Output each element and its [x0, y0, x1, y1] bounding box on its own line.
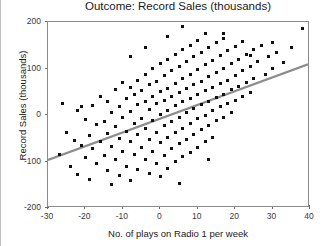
data-point: [222, 116, 225, 119]
data-point: [290, 46, 293, 49]
data-point: [155, 80, 158, 83]
data-point: [140, 89, 143, 92]
data-point: [110, 145, 113, 148]
data-point: [118, 137, 121, 140]
data-point: [110, 111, 113, 114]
data-point: [133, 93, 136, 96]
data-point: [166, 109, 169, 112]
data-point: [211, 109, 214, 112]
data-point: [118, 174, 121, 177]
data-point: [125, 130, 128, 133]
data-point: [226, 79, 229, 82]
data-point: [226, 102, 229, 105]
data-point: [140, 117, 143, 120]
x-tick-label: -30: [27, 211, 67, 221]
y-tick-label: -100: [7, 156, 41, 166]
data-point: [88, 134, 91, 137]
data-point: [215, 41, 218, 44]
data-point: [185, 60, 188, 63]
data-point: [267, 55, 270, 58]
x-tick-mark: [309, 205, 310, 209]
data-point: [159, 175, 162, 178]
data-point: [136, 103, 139, 106]
data-point: [181, 25, 184, 28]
data-point: [219, 54, 222, 57]
data-point: [301, 27, 304, 30]
data-point: [192, 107, 195, 110]
data-point: [230, 88, 233, 91]
data-point: [185, 111, 188, 114]
data-point: [178, 91, 181, 94]
data-point: [118, 105, 121, 108]
data-point: [95, 162, 98, 165]
data-point: [155, 162, 158, 165]
data-point: [256, 60, 259, 63]
data-point: [271, 41, 274, 44]
y-tick-label: 100: [7, 63, 41, 73]
data-point: [76, 173, 79, 176]
data-point: [155, 102, 158, 105]
data-point: [215, 119, 218, 122]
data-point: [271, 67, 274, 70]
x-tick-label: 30: [252, 211, 292, 221]
data-point: [192, 83, 195, 86]
data-point: [170, 95, 173, 98]
data-point: [204, 32, 207, 35]
data-point: [241, 69, 244, 72]
data-point: [200, 51, 203, 54]
data-point: [200, 128, 203, 131]
data-point: [245, 53, 248, 56]
data-point: [170, 147, 173, 150]
data-point: [249, 91, 252, 94]
data-point: [181, 127, 184, 130]
data-point: [178, 182, 181, 185]
data-point: [129, 55, 132, 58]
data-point: [204, 114, 207, 117]
data-point: [196, 68, 199, 71]
data-point: [148, 83, 151, 86]
data-point: [106, 132, 109, 135]
data-points-layer: [48, 22, 308, 206]
data-point: [159, 62, 162, 65]
data-point: [174, 53, 177, 56]
data-point: [185, 87, 188, 90]
data-point: [99, 140, 102, 143]
data-point: [163, 99, 166, 102]
data-point: [110, 183, 113, 186]
data-point: [174, 104, 177, 107]
data-point: [106, 169, 109, 172]
data-point: [166, 136, 169, 139]
data-point: [125, 97, 128, 100]
data-point: [129, 110, 132, 113]
data-point: [144, 73, 147, 76]
data-point: [166, 58, 169, 61]
data-point: [133, 122, 136, 125]
data-point: [58, 153, 61, 156]
data-point: [181, 155, 184, 158]
data-point: [196, 146, 199, 149]
data-point: [178, 142, 181, 145]
data-point: [234, 74, 237, 77]
data-point: [170, 120, 173, 123]
data-point: [249, 65, 252, 68]
data-point: [204, 63, 207, 66]
data-point: [264, 73, 267, 76]
data-point: [140, 146, 143, 149]
data-point: [252, 48, 255, 51]
data-point: [170, 69, 173, 72]
data-point: [69, 165, 72, 168]
data-point: [275, 51, 278, 54]
data-point: [219, 105, 222, 108]
data-point: [174, 160, 177, 163]
plot-area: [47, 21, 309, 207]
chart-title: Outcome: Record Sales (thousands): [47, 0, 309, 12]
data-point: [249, 54, 252, 57]
data-point: [159, 113, 162, 116]
data-point: [174, 82, 177, 85]
data-point: [185, 138, 188, 141]
data-point: [99, 95, 102, 98]
data-point: [174, 131, 177, 134]
data-point: [61, 102, 64, 105]
data-point: [103, 120, 106, 123]
data-point: [189, 73, 192, 76]
